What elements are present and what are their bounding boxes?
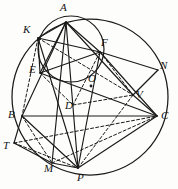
- point-label-C: C: [161, 110, 168, 121]
- point-label-A: A: [60, 2, 67, 13]
- point-label-N: N: [160, 60, 167, 71]
- point-label-T: T: [3, 140, 9, 151]
- geometry-figure: AKFNEODVBCTMP: [0, 0, 178, 189]
- point-label-O: O: [88, 73, 96, 84]
- center-point-O: [90, 85, 93, 88]
- dashed-P-V: [78, 95, 133, 168]
- point-label-E: E: [29, 64, 36, 75]
- dashed-K-B: [22, 38, 38, 116]
- point-label-D: D: [65, 100, 73, 111]
- point-label-F: F: [101, 37, 108, 48]
- point-label-P: P: [77, 172, 84, 183]
- dashed-K-V: [38, 38, 133, 95]
- point-label-B: B: [8, 109, 15, 120]
- point-label-M: M: [44, 163, 53, 174]
- segment-K-F: [38, 38, 100, 52]
- segment-T-M: [14, 143, 52, 163]
- point-label-K: K: [23, 24, 30, 35]
- segment-A-P: [66, 22, 78, 168]
- segment-F-C: [100, 52, 157, 116]
- dashed-F-V: [100, 52, 133, 95]
- point-label-V: V: [136, 89, 143, 100]
